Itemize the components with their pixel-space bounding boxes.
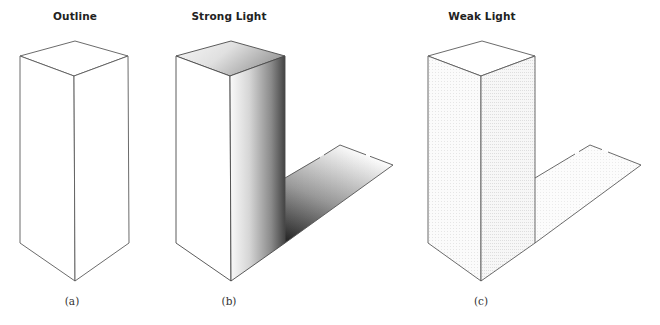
box-b-right-face [230,56,285,281]
shadow-strong [285,145,393,243]
box-c-left-face [428,56,481,281]
box-strong-light [176,41,285,281]
box-a-right-face [74,56,129,281]
figure-canvas [0,0,660,325]
box-outline [20,41,129,281]
box-weak-light [428,41,535,281]
box-a-left-face [20,56,75,281]
box-c-right-face [481,56,535,281]
shadow-weak [535,145,641,243]
box-b-left-face [176,56,231,281]
